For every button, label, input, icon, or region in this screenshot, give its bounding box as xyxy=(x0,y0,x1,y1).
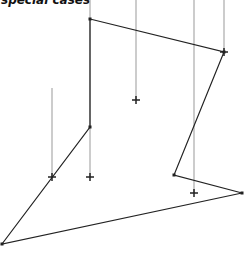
cross-marker-icon xyxy=(132,96,140,104)
cross-marker-icon xyxy=(86,173,94,181)
cross-markers xyxy=(48,48,228,197)
cross-marker-icon xyxy=(220,48,228,56)
polygon-shape xyxy=(2,19,242,244)
vertex-dot xyxy=(241,192,244,195)
vertical-rays xyxy=(52,0,224,193)
diagram-canvas xyxy=(0,0,248,253)
polygon-vertices xyxy=(1,18,244,246)
vertex-dot xyxy=(89,126,92,129)
vertex-dot xyxy=(173,174,176,177)
vertex-dot xyxy=(1,243,4,246)
vertex-dot xyxy=(89,18,92,21)
cross-marker-icon xyxy=(190,189,198,197)
